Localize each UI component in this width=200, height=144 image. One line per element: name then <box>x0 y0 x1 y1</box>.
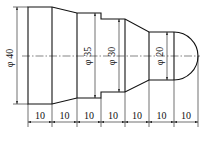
shaft-drawing: φ 40 φ 35 φ 30 φ 20 10 10 10 10 10 10 10 <box>0 0 200 144</box>
length-label-6: 10 <box>157 110 167 121</box>
length-label-4: 10 <box>108 110 118 121</box>
diameter-label-30: φ 30 <box>106 47 117 65</box>
diameter-label-20: φ 20 <box>154 47 165 65</box>
length-label-1: 10 <box>35 110 45 121</box>
diameter-label-40: φ 40 <box>4 49 15 67</box>
length-label-2: 10 <box>60 110 70 121</box>
diameter-label-35: φ 35 <box>82 47 93 65</box>
length-label-3: 10 <box>84 110 94 121</box>
extension-lines <box>13 7 198 127</box>
length-label-7: 10 <box>181 110 191 121</box>
length-label-5: 10 <box>132 110 142 121</box>
